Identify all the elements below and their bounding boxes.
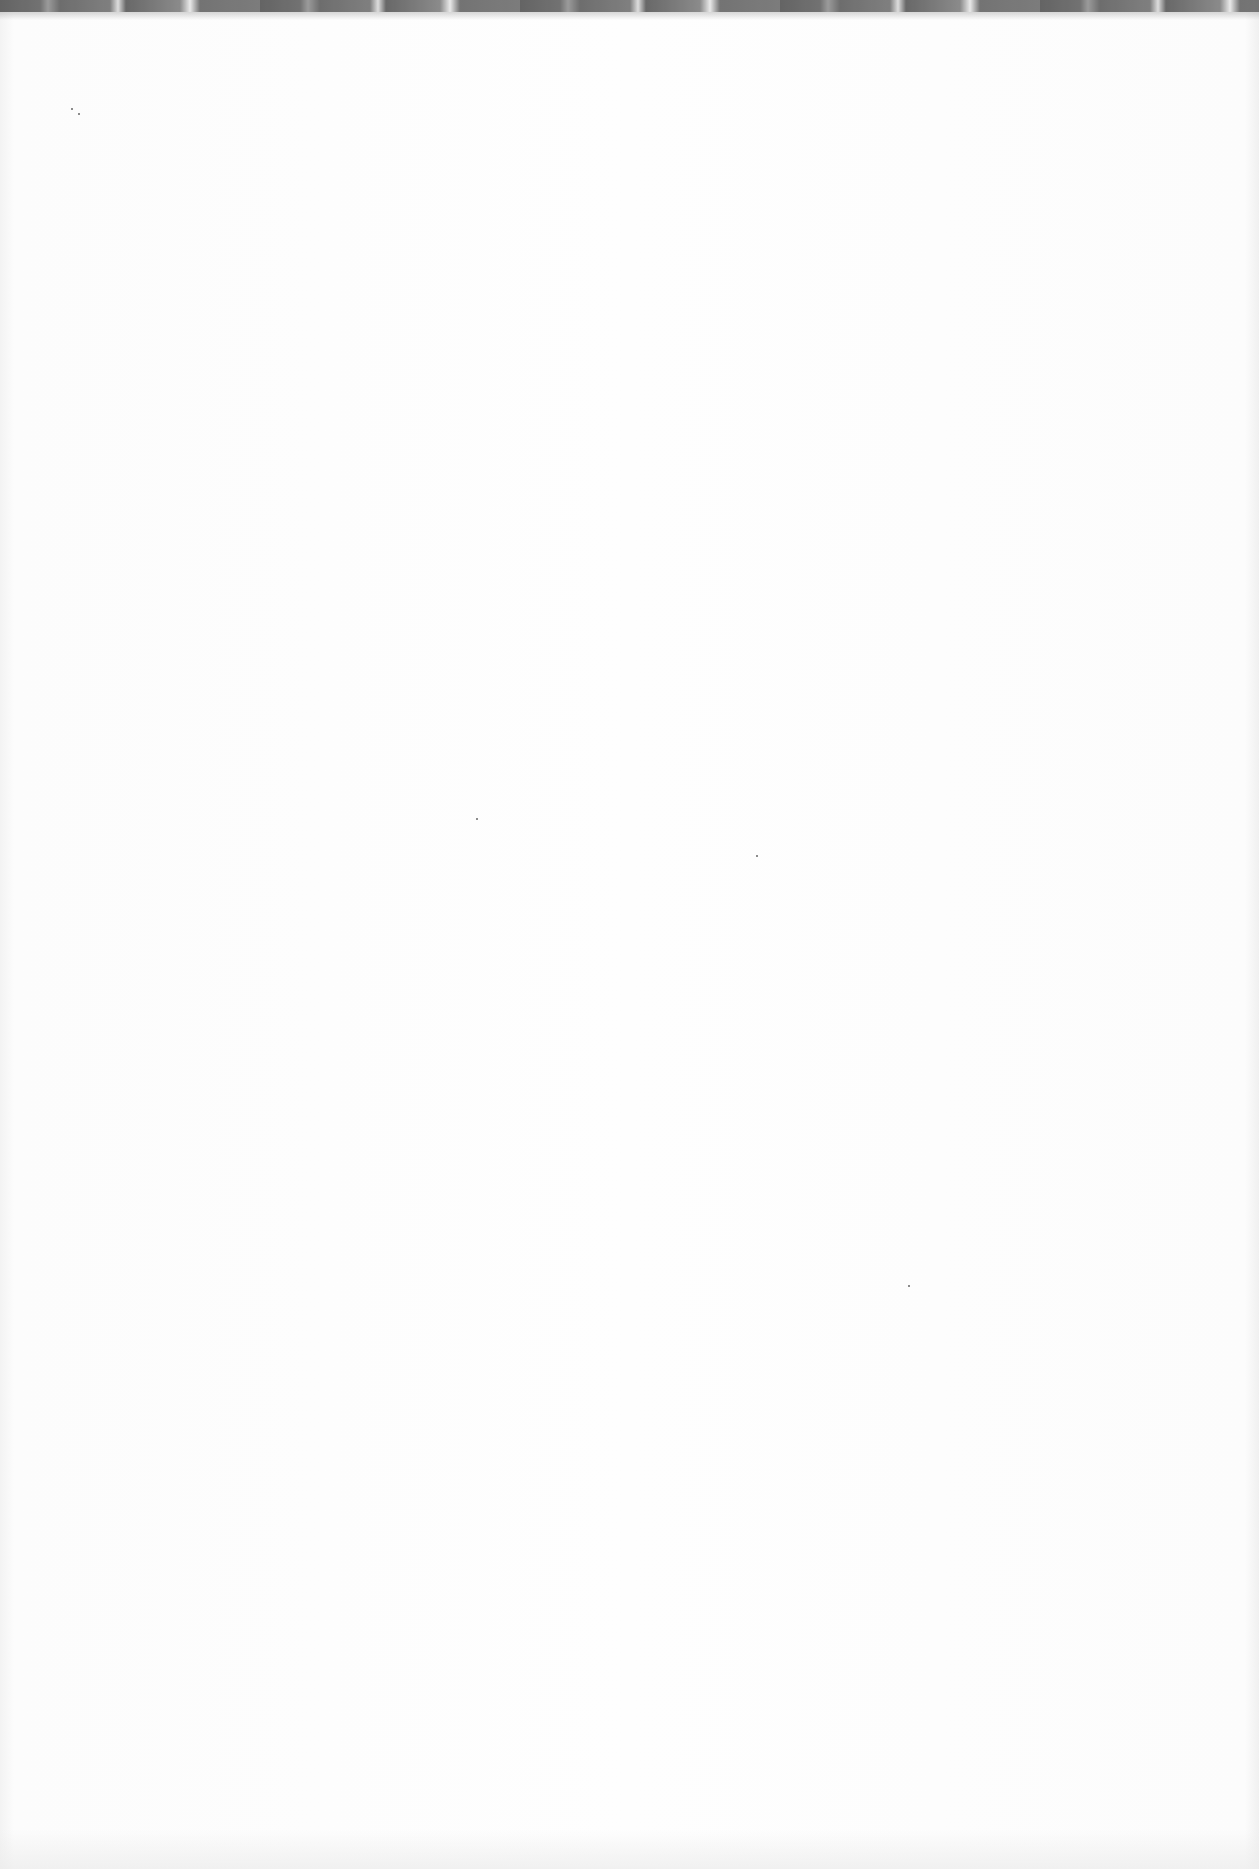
- dust-speck: [71, 108, 73, 110]
- blank-page: [0, 0, 1259, 1869]
- scanner-bottom-edge: [0, 1829, 1259, 1869]
- dust-speck: [756, 855, 758, 857]
- scanner-top-edge: [0, 0, 1259, 12]
- dust-speck: [78, 113, 80, 115]
- dust-speck: [908, 1285, 910, 1287]
- dust-speck: [476, 818, 478, 820]
